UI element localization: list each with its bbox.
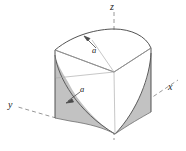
figure-canvas: z x y a a	[0, 0, 186, 151]
solid-diagram-svg	[0, 0, 186, 151]
x-axis-label: x	[168, 82, 172, 92]
radius-lower-label: a	[80, 85, 84, 94]
z-axis-label: z	[110, 2, 114, 12]
y-axis-label: y	[8, 100, 12, 110]
y-axis-line	[18, 107, 56, 118]
radius-top-label: a	[92, 46, 96, 55]
